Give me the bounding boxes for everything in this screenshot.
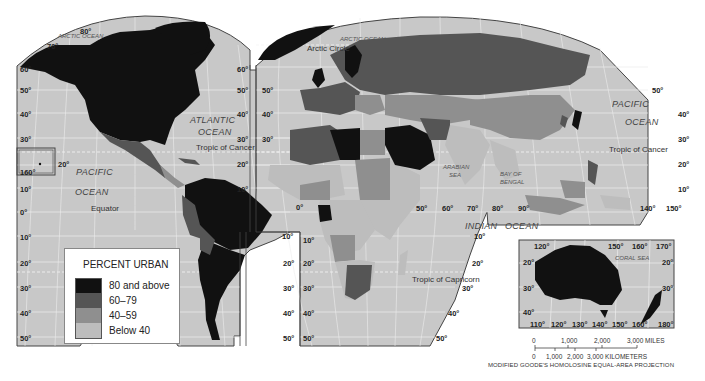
tropic-of-cancer-right-label: Tropic of Cancer: [609, 146, 668, 154]
lat-label: 30°: [462, 285, 473, 293]
scale-km-1000: 1,000: [546, 353, 562, 360]
scale-miles-3000: 3,000 MILES: [627, 337, 665, 344]
lat-label: 20°: [20, 260, 31, 268]
lat-label: 40°: [283, 310, 294, 318]
lat-label: 40°: [20, 111, 31, 119]
lon-label: 140°: [640, 205, 656, 213]
legend-swatch-40-59: [75, 308, 102, 323]
tropic-of-capricorn-label: Tropic of Capricorn: [412, 276, 480, 284]
lat-label: 60°: [20, 66, 31, 74]
inset-lon-label: 160°: [632, 321, 648, 329]
inset-lat-label: 20°: [662, 259, 673, 267]
inset-lon-label: 120°: [534, 243, 550, 251]
pacific-ocean-right-label-1: PACIFIC: [612, 100, 649, 109]
lat-label: 30°: [237, 136, 248, 144]
lat-label: 40°: [20, 310, 31, 318]
lat-label: 10°: [678, 186, 689, 194]
lat-label: 10°: [303, 237, 314, 245]
inset-lon-label: 140°: [592, 321, 608, 329]
legend-swatch-60-79: [75, 293, 102, 308]
inset-lon-label: 130°: [572, 321, 588, 329]
scale-km-3000: 3,000 KILOMETERS: [587, 353, 647, 360]
inset-lon-label: 180°: [658, 321, 674, 329]
lat-label: 50°: [20, 335, 31, 343]
pacific-ocean-left-label-1: PACIFIC: [76, 168, 113, 177]
equator-label: Equator: [91, 205, 119, 213]
lat-label: 10°: [474, 233, 485, 241]
scale-miles-0: 0: [532, 337, 536, 344]
pacific-ocean-left-label-2: OCEAN: [75, 188, 109, 197]
lat-label: 60°: [237, 66, 248, 74]
lat-label: 50°: [237, 87, 248, 95]
lat-label: 50°: [652, 87, 663, 95]
lon-label: 150°: [666, 205, 682, 213]
legend-swatch-below-40: [75, 323, 102, 339]
lat-label: 30°: [283, 285, 294, 293]
scale-miles-1000: 1,000: [561, 337, 577, 344]
inset-lat-label: 40°: [523, 309, 534, 317]
sudan: [355, 158, 390, 200]
lat-label: 30°: [20, 285, 31, 293]
lat-label: 40°: [262, 111, 273, 119]
lon-label: 80°: [492, 205, 503, 213]
bay-of-bengal-label-2: BENGAL: [500, 179, 524, 185]
inset-lon-label: 150°: [612, 321, 628, 329]
lat-label: 50°: [20, 87, 31, 95]
tropic-of-cancer-left-label: Tropic of Cancer: [196, 144, 255, 152]
lat-label: 50°: [303, 335, 314, 343]
scale-km-0: 0: [532, 353, 536, 360]
arctic-ocean-label-right: ARCTIC OCEAN: [340, 36, 385, 42]
lat-label: 80°: [80, 28, 91, 36]
hawaii-lon-label: 160°: [20, 169, 36, 177]
lon-label: 90°: [518, 205, 529, 213]
arctic-circle-label: Arctic Circle: [307, 45, 350, 53]
lat-label: 30°: [20, 136, 31, 144]
lat-label: 30°: [678, 136, 689, 144]
atlantic-ocean-label-2: OCEAN: [198, 128, 232, 137]
indian-ocean-label-2: OCEAN: [505, 222, 539, 231]
legend-label: 60–79: [109, 295, 137, 306]
lat-label: 20°: [237, 161, 248, 169]
inset-lon-label: 120°: [551, 321, 567, 329]
inset-lat-label: 30°: [523, 285, 534, 293]
inset-lon-label: 110°: [530, 321, 545, 329]
lat-label: 30°: [262, 136, 273, 144]
lat-label: 50°: [262, 87, 273, 95]
inset-lon-label: 170°: [656, 243, 672, 251]
legend-label: 80 and above: [109, 280, 170, 291]
hawaii-lat-label: 20°: [58, 161, 69, 169]
atlantic-ocean-label-1: ATLANTIC: [190, 116, 235, 125]
gabon: [318, 205, 332, 222]
lat-label: 0°: [20, 209, 27, 217]
indian-ocean-label-1: INDIAN: [465, 222, 497, 231]
lat-label: 10°: [20, 186, 31, 194]
prime-meridian-label: 0°: [296, 204, 303, 212]
lon-label: 50°: [416, 205, 427, 213]
scale-km-2000: 2,000: [567, 353, 583, 360]
lat-label: 10°: [237, 186, 248, 194]
lat-label: 20°: [283, 260, 294, 268]
lat-label: 10°: [20, 234, 31, 242]
lat-label: 40°: [448, 310, 459, 318]
inset-lon-label: 150°: [608, 243, 624, 251]
coral-sea-label: CORAL SEA: [615, 255, 649, 261]
legend-label: 40–59: [109, 310, 137, 321]
legend-swatch-80-above: [75, 278, 102, 294]
lat-label: 20°: [678, 161, 689, 169]
legend-title: PERCENT URBAN: [83, 259, 168, 270]
arabian-sea-label-1: ARABIAN: [443, 164, 469, 170]
lat-label: 50°: [283, 335, 294, 343]
lat-label: 30°: [303, 285, 314, 293]
lat-label: 40°: [303, 310, 314, 318]
lon-label: 70°: [467, 205, 478, 213]
lat-label: 40°: [237, 111, 248, 119]
lat-label: 10°: [282, 233, 293, 241]
scale-miles-2000: 2,000: [594, 337, 610, 344]
legend: PERCENT URBAN 80 and above 60–79 40–59 B…: [64, 248, 180, 344]
lat-label: 20°: [303, 260, 314, 268]
arabian-sea-label-2: SEA: [449, 172, 461, 178]
lat-label: 40°: [678, 111, 689, 119]
pacific-ocean-right-label-2: OCEAN: [625, 118, 659, 127]
bay-of-bengal-label-1: BAY OF: [500, 171, 521, 177]
projection-note: MODIFIED GOODE'S HOMOLOSINE EQUAL-AREA P…: [488, 362, 674, 368]
